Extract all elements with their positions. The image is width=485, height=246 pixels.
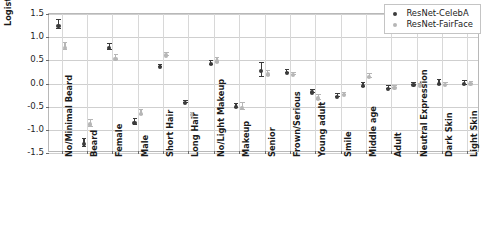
error-bar-cap-upper [209,60,214,61]
data-marker [468,82,472,86]
x-tick-mark [62,151,63,154]
data-marker [56,24,60,28]
gridline-vertical [214,14,215,151]
x-tick-mark [214,151,215,154]
y-tick-mark [46,60,49,61]
x-tick-label-dark-skin: Dark Skin [445,112,454,157]
chart-legend[interactable]: ResNet-CelebAResNet-FairFace [384,4,481,34]
data-marker [335,95,339,99]
x-tick-mark [442,151,443,154]
error-bar-cap-upper [107,43,112,44]
x-tick-label-neutral-expression: Neutral Expression [420,69,429,157]
error-bar-cap-upper [259,62,264,63]
x-tick-label-long-hair: Long Hair [191,112,200,157]
legend-item[interactable]: ResNet-FairFace [390,19,473,30]
data-marker [411,83,415,87]
x-tick-mark [341,151,342,154]
x-tick-label-short-hair: Short Hair [166,110,175,157]
x-tick-label-frown-serious: Frown/Serious [293,91,302,157]
data-marker [266,72,270,76]
y-tick-label: -1.5 [10,148,44,156]
figure-canvas: Logistic Regression Coefficient 1.51.00.… [0,0,485,246]
data-marker [392,86,396,90]
data-marker [215,59,219,63]
x-tick-label-adult: Adult [394,132,403,157]
x-tick-label-no-light-makeup: No/Light Makeup [217,79,226,157]
error-bar-cap-upper [234,103,239,104]
error-bar-cap-upper [215,57,220,58]
data-marker [259,69,263,73]
x-tick-mark [366,151,367,154]
y-tick-label: -0.5 [10,102,44,110]
gridline-vertical [366,14,367,151]
error-bar-cap-lower [82,146,87,147]
x-tick-label-no-minimal-beard: No/Minimal Beard [65,75,74,157]
x-tick-label-light-skin: Light Skin [470,111,479,157]
data-marker [82,142,86,146]
data-marker [63,46,67,50]
y-tick-label: 1.0 [10,32,44,40]
x-tick-label-senior: Senior [268,127,277,157]
gridline-vertical [62,14,63,151]
error-bar-cap-upper [310,89,315,90]
error-bar-cap-upper [361,82,366,83]
data-marker [367,75,371,79]
data-marker [209,62,213,66]
x-tick-mark [138,151,139,154]
gridline-vertical [87,14,88,151]
y-tick-mark [46,107,49,108]
x-tick-mark [239,151,240,154]
gridline-vertical [239,14,240,151]
error-bar-cap-upper [114,54,119,55]
gridline-vertical [391,14,392,151]
error-bar-cap-upper [285,69,290,70]
x-tick-label-young-adult: Young adult [318,102,327,157]
y-tick-mark [46,153,49,154]
data-marker [164,53,168,57]
y-tick-mark [46,14,49,15]
data-marker [462,82,466,86]
gridline-vertical [163,14,164,151]
y-tick-mark [46,37,49,38]
gridline-vertical [265,14,266,151]
data-marker [132,121,136,125]
data-marker [437,82,441,86]
x-tick-mark [265,151,266,154]
data-marker [443,83,447,87]
legend-item[interactable]: ResNet-CelebA [390,8,473,19]
x-tick-mark [87,151,88,154]
error-bar-cap-upper [63,42,68,43]
data-marker [158,65,162,69]
y-tick-label: -1.0 [10,125,44,133]
y-tick-mark [46,84,49,85]
y-tick-label: 0.5 [10,55,44,63]
error-bar-cap-lower [56,28,61,29]
error-bar-cap-upper [82,138,87,139]
legend-label: ResNet-FairFace [406,19,473,30]
y-axis-tick-labels: 1.51.00.50.0-0.5-1.0-1.5 [0,0,44,246]
data-marker [386,87,390,91]
data-marker [234,105,238,109]
data-marker [183,101,187,105]
data-marker [342,93,346,97]
x-tick-mark [163,151,164,154]
gridline-vertical [290,14,291,151]
x-tick-label-smile: Smile [344,131,353,157]
y-tick-mark [46,130,49,131]
error-bar-cap-upper [266,70,271,71]
x-tick-label-male: Male [141,135,150,157]
data-marker [291,73,295,77]
x-tick-mark [290,151,291,154]
x-tick-label-middle-age: Middle age [369,106,378,157]
y-tick-label: 1.5 [10,9,44,17]
x-tick-label-beard: Beard [90,130,99,157]
error-bar-cap-upper [316,94,321,95]
data-marker [88,122,92,126]
error-bar-cap-upper [437,79,442,80]
error-bar-cap-upper [367,73,372,74]
x-tick-label-makeup: Makeup [242,121,251,157]
x-tick-label-female: Female [115,124,124,157]
y-tick-label: 0.0 [10,79,44,87]
legend-marker-dot-icon [390,23,400,27]
data-marker [285,71,289,75]
